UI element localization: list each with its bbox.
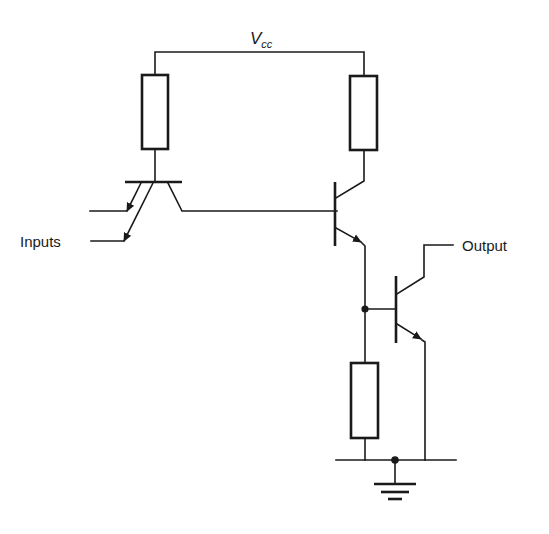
resistor-r3: [351, 363, 378, 438]
output-label: Output: [462, 237, 508, 254]
transistor-t1-multi-emitter: [90, 182, 337, 241]
ground-icon: [374, 460, 416, 499]
resistor-r1: [142, 75, 168, 149]
inputs-label: Inputs: [20, 233, 61, 250]
vcc-rail: [155, 52, 364, 76]
transistor-t2-driver: [335, 150, 365, 310]
resistor-r2: [350, 76, 377, 150]
circuit-schematic: Vcc Inputs: [0, 0, 549, 534]
vcc-label: Vcc: [250, 29, 273, 50]
